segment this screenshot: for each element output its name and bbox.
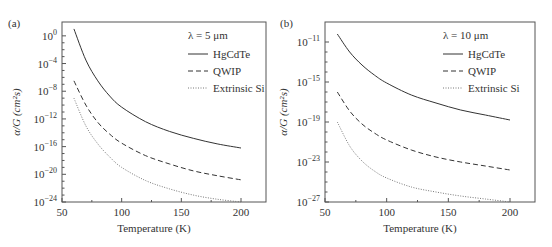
legend-label: HgCdTe [468,48,505,60]
x-axis-label: Temperature (K) [117,222,191,235]
legend: λ = 5 μmHgCdTeQWIPExtrinsic Si [188,29,265,94]
series-qwip [337,92,510,170]
panel-label: (a) [8,17,21,30]
x-tick-label: 200 [233,206,250,218]
y-axis-label: α/G (cm²s) [10,88,23,136]
y-tick-label: 10−11 [297,34,320,48]
y-tick-label: 10−23 [296,154,320,168]
x-tick-label: 150 [440,206,457,218]
y-tick-label: 100 [42,28,57,42]
chart-panel-a: (a)5010015020010010−410−810−1210−1610−20… [8,17,266,235]
y-tick-label: 10−19 [296,114,320,128]
y-tick-label: 10−27 [296,194,320,208]
x-tick-label: 50 [57,206,69,218]
legend-title: λ = 10 μm [443,29,489,41]
y-tick-label: 10−12 [33,111,57,125]
legend-label: Extrinsic Si [468,82,520,94]
legend-label: Extrinsic Si [213,82,265,94]
y-tick-label: 10−24 [33,194,57,208]
y-axis-label: α/G (cm²s) [277,88,290,136]
y-tick-label: 10−8 [37,83,57,97]
y-tick-label: 10−20 [33,166,57,180]
legend: λ = 10 μmHgCdTeQWIPExtrinsic Si [443,29,520,94]
x-tick-label: 50 [320,206,332,218]
figure: (a)5010015020010010−410−810−1210−1610−20… [0,0,552,247]
series-extrinsic-si [74,98,241,202]
legend-label: HgCdTe [213,48,250,60]
y-tick-label: 10−15 [296,74,320,88]
series-extrinsic-si [337,122,510,202]
x-tick-label: 150 [173,206,190,218]
y-tick-label: 10−16 [33,139,57,153]
series-hgcdte [337,34,510,120]
legend-title: λ = 5 μm [188,29,228,41]
x-tick-label: 200 [502,206,519,218]
x-tick-label: 100 [113,206,130,218]
legend-label: QWIP [213,65,241,77]
panel-label: (b) [280,17,293,30]
series-qwip [74,81,241,180]
x-tick-label: 100 [378,206,395,218]
x-axis-label: Temperature (K) [383,222,457,235]
legend-label: QWIP [468,65,496,77]
y-tick-label: 10−4 [37,56,57,70]
chart-panel-b: (b)5010015020010−1110−1510−1910−2310−27T… [277,17,535,235]
